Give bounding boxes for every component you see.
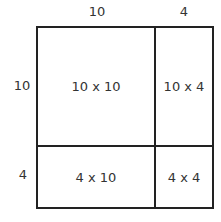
cell-10x4: 10 x 4 — [156, 28, 212, 145]
top-label-10: 10 — [80, 4, 114, 20]
top-label-4: 4 — [172, 4, 196, 20]
cell-4x10: 4 x 10 — [38, 147, 154, 207]
cell-10x10: 10 x 10 — [38, 28, 154, 145]
side-label-4: 4 — [16, 167, 30, 183]
side-label-10: 10 — [10, 78, 34, 94]
cell-4x4: 4 x 4 — [156, 147, 212, 207]
